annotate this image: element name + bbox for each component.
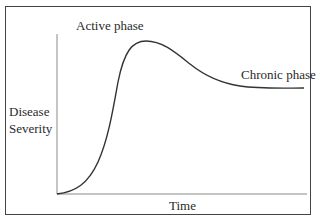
x-axis-label: Time (169, 198, 196, 214)
y-axis-label: Disease Severity (9, 103, 52, 137)
severity-curve (57, 41, 304, 194)
chronic-phase-label: Chronic phase (241, 67, 316, 83)
y-axis-label-line2: Severity (9, 120, 52, 137)
active-phase-label: Active phase (76, 18, 144, 34)
y-axis-label-line1: Disease (9, 103, 52, 120)
